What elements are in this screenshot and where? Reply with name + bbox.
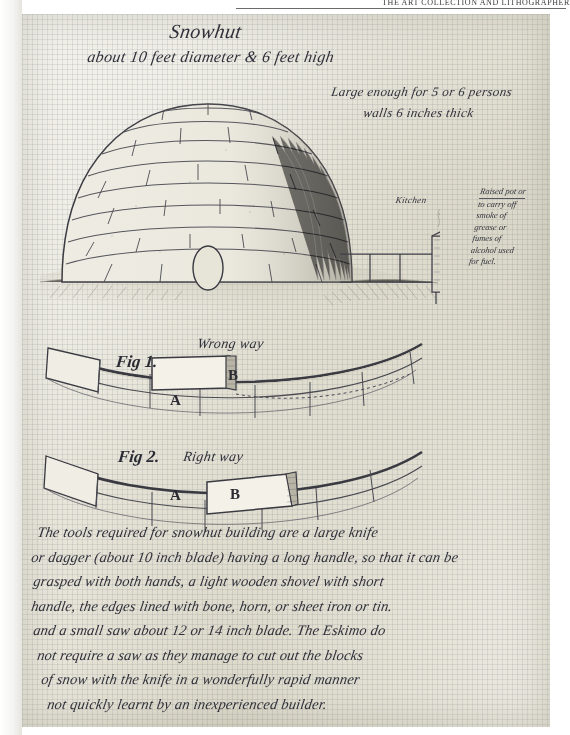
figure-2-caption: Right way <box>182 449 245 465</box>
paragraph-line: not quickly learnt by an inexperienced b… <box>46 696 563 713</box>
explanatory-paragraph: The tools required for snowhut building … <box>30 524 560 720</box>
note-chimney-line: fumes of <box>472 233 560 245</box>
note-chimney-line: alcohol used <box>470 245 558 257</box>
figure-1-block-a: A <box>170 392 181 409</box>
note-wall-thickness: walls 6 inches thick <box>362 105 475 121</box>
figure-2-block-a: A <box>170 487 181 504</box>
figure-1-caption: Wrong way <box>196 336 265 352</box>
paragraph-line: The tools required for snowhut building … <box>36 524 563 541</box>
note-chimney-line: to carry off <box>477 199 565 211</box>
note-chimney: Raised pot or to carry off smoke of grea… <box>468 186 567 268</box>
paragraph-line: handle, the edges lined with bone, horn,… <box>30 598 563 615</box>
figure-2-block-b: B <box>230 486 240 503</box>
scan-gutter <box>0 0 22 735</box>
note-kitchen: Kitchen <box>395 195 427 205</box>
paragraph-line: and a small saw about 12 or 14 inch blad… <box>32 622 563 639</box>
note-chimney-line: Raised pot or <box>479 186 527 199</box>
note-chimney-line: smoke of <box>475 210 563 222</box>
note-chimney-line: grease or <box>474 222 562 234</box>
drawing-title: Snowhut <box>168 20 243 43</box>
figure-1-label: Fig 1. <box>115 352 159 372</box>
paragraph-line: not require a saw as they manage to cut … <box>36 647 563 664</box>
running-head: THE ART COLLECTION AND LITHOGRAPHER <box>236 0 570 7</box>
note-chimney-line: for fuel. <box>468 256 556 268</box>
note-capacity: Large enough for 5 or 6 persons <box>330 84 513 100</box>
figure-1-block-b: B <box>228 367 238 384</box>
paragraph-line: of snow with the knife in a wonderfully … <box>40 671 563 688</box>
drawing-subtitle: about 10 feet diameter & 6 feet high <box>86 48 336 66</box>
header-rule <box>236 8 566 9</box>
figure-2-label: Fig 2. <box>117 447 161 467</box>
paragraph-line: or dagger (about 10 inch blade) having a… <box>30 549 563 566</box>
paragraph-line: grasped with both hands, a light wooden … <box>32 573 563 590</box>
document-page: THE ART COLLECTION AND LITHOGRAPHER <box>0 0 570 735</box>
